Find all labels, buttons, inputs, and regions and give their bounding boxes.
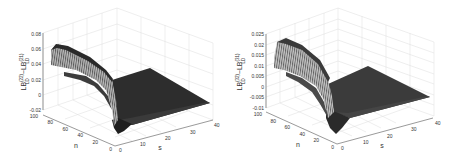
left-z-ticks: 0.08 0.06 0.04 0.02 0 -0.02 [30,31,42,113]
z-tick: -0.01 [253,105,265,111]
n-tick: 0 [109,146,112,152]
svg-text:LB(22)LD−LB(21)LD: LB(22)LD−LB(21)LD [19,53,30,91]
n-tick: 40 [77,132,83,138]
right-s-axis-label: s [380,142,384,149]
z-tick: 0 [38,92,41,98]
n-tick: 20 [92,139,98,145]
svg-text:LB(32)LD−LB(31)LD: LB(32)LD−LB(31)LD [235,53,246,91]
right-surface-plot: 0.025 0.02 0.015 0.01 0.005 0 -0.005 -0.… [230,0,453,159]
z-tick: 0.01 [254,63,264,69]
s-tick: 20 [165,135,171,141]
left-s-axis-label: s [158,144,162,151]
n-tick: 60 [62,126,68,132]
right-z-axis-label: LB(32)LD−LB(31)LD [235,53,246,91]
z-tick: -0.02 [30,107,42,113]
s-tick: 20 [387,133,393,139]
z-tick: 0.06 [31,46,41,52]
left-s-ticks: 0 10 20 30 40 [119,122,220,153]
n-tick: 80 [270,118,276,124]
z-tick: 0.005 [251,73,264,79]
s-tick: 10 [140,141,146,147]
z-tick: 0.02 [254,42,264,48]
right-n-ticks: 100 80 60 40 20 0 [254,111,335,150]
left-n-axis-label: n [74,142,78,149]
right-z-ticks: 0.025 0.02 0.015 0.01 0.005 0 -0.005 -0.… [250,31,264,111]
left-surface [51,44,210,134]
right-s-ticks: 0 10 20 30 40 [341,120,441,151]
n-tick: 100 [254,111,263,117]
n-tick: 40 [299,131,305,137]
right-n-axis-label: n [296,141,300,148]
s-tick: 40 [435,120,441,126]
s-tick: 10 [363,139,369,145]
right-plot-svg: 0.025 0.02 0.015 0.01 0.005 0 -0.005 -0.… [230,0,453,159]
left-z-axis-label: LB(22)LD−LB(21)LD [19,53,30,91]
z-tick: 0.02 [31,77,41,83]
left-plot-svg: 0.08 0.06 0.04 0.02 0 -0.02 100 80 60 40… [0,0,230,159]
s-tick: 0 [119,147,122,153]
s-tick: 30 [190,129,196,135]
right-surface [274,38,430,134]
left-surface-plot: 0.08 0.06 0.04 0.02 0 -0.02 100 80 60 40… [0,0,230,159]
z-tick: 0.08 [31,31,41,37]
n-tick: 0 [331,144,334,150]
s-tick: 30 [411,126,417,132]
s-tick: 0 [341,145,344,151]
z-tick: 0.04 [31,61,41,67]
z-tick: 0.015 [251,52,264,58]
n-tick: 60 [284,124,290,130]
s-tick: 40 [214,122,220,128]
z-tick: -0.005 [250,94,264,100]
n-tick: 100 [30,113,39,119]
n-tick: 80 [47,119,53,125]
left-n-ticks: 100 80 60 40 20 0 [30,113,113,152]
n-tick: 20 [313,137,319,143]
z-tick: 0.025 [251,31,264,37]
z-tick: 0 [261,84,264,90]
